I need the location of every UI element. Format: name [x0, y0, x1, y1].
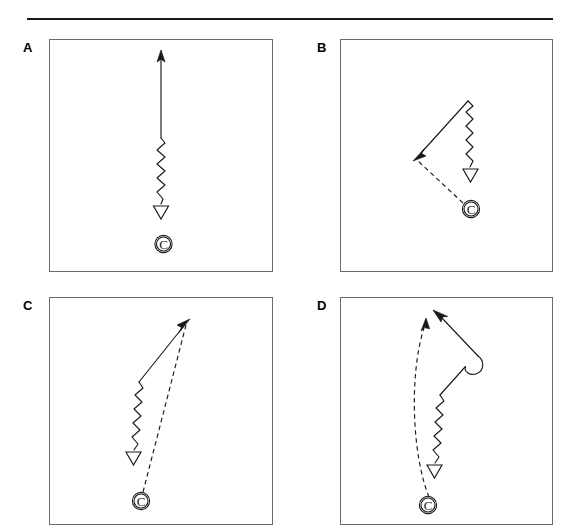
- panel-label-c: C: [23, 299, 32, 312]
- top-horizontal-rule: [27, 18, 553, 20]
- panel-a-frame: [49, 39, 273, 272]
- panel-label-b: B: [317, 41, 326, 54]
- panel-label-d: D: [317, 299, 326, 312]
- panel-c-frame: [49, 297, 273, 525]
- panel-d-frame: [340, 297, 553, 525]
- panel-b-frame: [340, 39, 553, 272]
- panel-label-a: A: [23, 41, 32, 54]
